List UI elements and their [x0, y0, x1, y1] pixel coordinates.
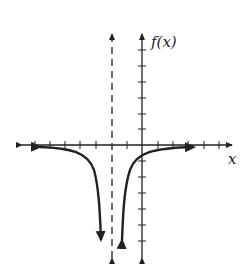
y-axis: [138, 34, 146, 258]
chart-canvas: f(x) x: [0, 0, 249, 269]
y-axis-label: f(x): [150, 33, 177, 51]
x-axis-label: x: [228, 150, 237, 168]
curve-right-branch: [122, 147, 194, 240]
curve-left-branch: [40, 147, 101, 240]
